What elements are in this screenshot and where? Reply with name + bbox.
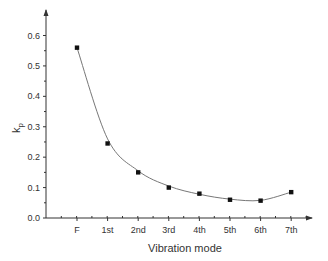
y-tick-label: 0.2 <box>27 152 40 162</box>
square-marker-icon <box>167 185 171 189</box>
y-tick-label: 0.5 <box>27 61 40 71</box>
y-tick-label: 0.4 <box>27 91 40 101</box>
x-tick-label: F <box>74 225 80 235</box>
square-marker-icon <box>136 170 140 174</box>
x-axis-title: Vibration mode <box>148 242 222 254</box>
x-axis-ticks: F1st2nd3rd4th5th6th7th <box>61 216 306 235</box>
x-tick-label: 2nd <box>131 225 146 235</box>
x-axis-arrow-icon <box>306 216 313 221</box>
x-tick-label: 5th <box>224 225 237 235</box>
y-tick-label: 0.1 <box>27 183 40 193</box>
y-axis-title: kp <box>10 122 25 133</box>
square-marker-icon <box>75 45 79 49</box>
y-tick-label: 0.0 <box>27 213 40 223</box>
x-tick-label: 4th <box>193 225 206 235</box>
y-tick-label: 0.6 <box>27 31 40 41</box>
square-marker-icon <box>105 141 109 145</box>
square-marker-icon <box>289 190 293 194</box>
chart: 0.00.10.20.30.40.50.6 F1st2nd3rd4th5th6t… <box>0 0 328 261</box>
x-tick-label: 3rd <box>162 225 175 235</box>
x-tick-label: 1st <box>102 225 115 235</box>
y-axis-ticks: 0.00.10.20.30.40.50.6 <box>27 31 46 224</box>
data-points <box>75 45 294 202</box>
fit-curve <box>77 48 291 201</box>
x-tick-label: 7th <box>285 225 298 235</box>
square-marker-icon <box>197 191 201 195</box>
y-axis-arrow-icon <box>44 9 49 16</box>
square-marker-icon <box>258 198 262 202</box>
square-marker-icon <box>228 198 232 202</box>
x-tick-label: 6th <box>254 225 267 235</box>
y-tick-label: 0.3 <box>27 122 40 132</box>
